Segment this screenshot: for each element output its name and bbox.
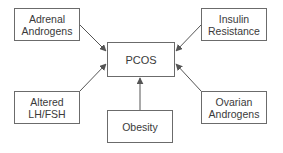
factor-box-obesity: Obesity	[107, 110, 173, 143]
factor-box-altered-lh-fsh: Altered LH/FSH	[14, 91, 80, 124]
factor-box-insulin-resistance: Insulin Resistance	[201, 8, 267, 41]
arrow-ovarian-to-pcos	[176, 64, 201, 91]
factor-label: Altered LH/FSH	[28, 96, 65, 120]
factor-box-ovarian-androgens: Ovarian Androgens	[201, 91, 267, 124]
arrow-adrenal-to-pcos	[80, 25, 106, 51]
center-label: PCOS	[125, 54, 156, 66]
center-box-pcos: PCOS	[107, 42, 175, 77]
factor-label: Adrenal Androgens	[22, 13, 73, 37]
factor-box-adrenal-androgens: Adrenal Androgens	[14, 8, 80, 41]
factor-label: Ovarian Androgens	[209, 96, 260, 120]
factor-label: Insulin Resistance	[208, 13, 260, 37]
factor-label: Obesity	[122, 121, 158, 133]
arrow-lhfsh-to-pcos	[80, 64, 106, 91]
arrow-insulin-to-pcos	[176, 25, 201, 51]
